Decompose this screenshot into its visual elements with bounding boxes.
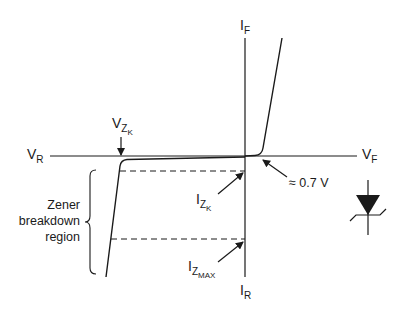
zener-breakdown-region-label: Zener breakdown region [4,197,80,245]
vzk-label: VZK [112,116,133,130]
region-label-line: region [4,229,80,245]
izmax-arrow [218,242,243,262]
axis-label-main: V [362,146,371,162]
forward-curve [245,38,282,156]
izk-arrow [218,173,243,194]
axis-label-sub: R [244,290,251,301]
label-subsub: K [206,204,211,213]
axis-label-vr: VR [27,147,44,161]
region-label-line: breakdown [4,213,80,229]
region-brace [85,170,96,274]
axis-label-main: V [27,146,36,162]
label-subsub: K [127,128,132,137]
axis-label-ir: IR [240,283,251,297]
axis-label-sub: F [244,25,250,36]
forward-voltage-label: ≈ 0.7 V [289,176,329,190]
axis-label-if: IF [240,18,250,32]
izk-label: IZK [196,192,211,206]
zener-diode-symbol-icon [350,180,386,235]
label-subsub: MAX [198,271,215,280]
izmax-label: IZMAX [188,259,215,273]
reverse-breakdown-curve [106,157,245,277]
axis-label-sub: R [36,154,43,165]
forward-voltage-arrow [263,160,287,177]
axis-label-sub: F [371,154,377,165]
region-label-line: Zener [4,197,80,213]
axis-label-vf: VF [362,147,377,161]
label-main: V [112,115,121,131]
